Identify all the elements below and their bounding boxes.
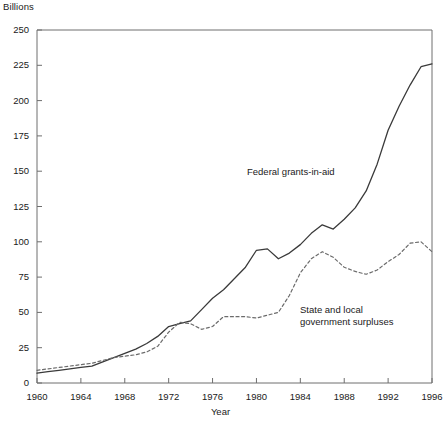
y-tick-label: 175	[1, 131, 29, 141]
y-tick-label: 25	[1, 343, 29, 353]
series-label-federal-grants-in-aid: Federal grants-in-aid	[247, 166, 335, 178]
y-tick-label: 200	[1, 96, 29, 106]
x-tick-label: 1972	[149, 392, 189, 402]
y-tick-label: 125	[1, 202, 29, 212]
x-tick-label: 1988	[324, 392, 364, 402]
x-tick-label: 1992	[368, 392, 408, 402]
y-tick-label: 75	[1, 272, 29, 282]
x-tick-label: 1960	[17, 392, 57, 402]
x-tick-label: 1968	[105, 392, 145, 402]
x-axis-title: Year	[0, 406, 441, 417]
x-tick-label: 1996	[412, 392, 447, 402]
y-axis-unit-label: Billions	[3, 1, 34, 12]
axes	[37, 30, 432, 383]
y-tick-label: 250	[1, 25, 29, 35]
series-label-state-local-surpluses: State and local government surpluses	[300, 304, 393, 327]
y-tick-label: 225	[1, 60, 29, 70]
x-tick-label: 1964	[61, 392, 101, 402]
x-tick-label: 1976	[193, 392, 233, 402]
axis-ticks	[37, 30, 432, 383]
y-tick-label: 50	[1, 307, 29, 317]
y-tick-label: 100	[1, 237, 29, 247]
y-tick-label: 0	[1, 378, 29, 388]
x-tick-label: 1984	[280, 392, 320, 402]
y-tick-label: 150	[1, 166, 29, 176]
x-tick-label: 1980	[236, 392, 276, 402]
plot-frame	[37, 30, 432, 383]
